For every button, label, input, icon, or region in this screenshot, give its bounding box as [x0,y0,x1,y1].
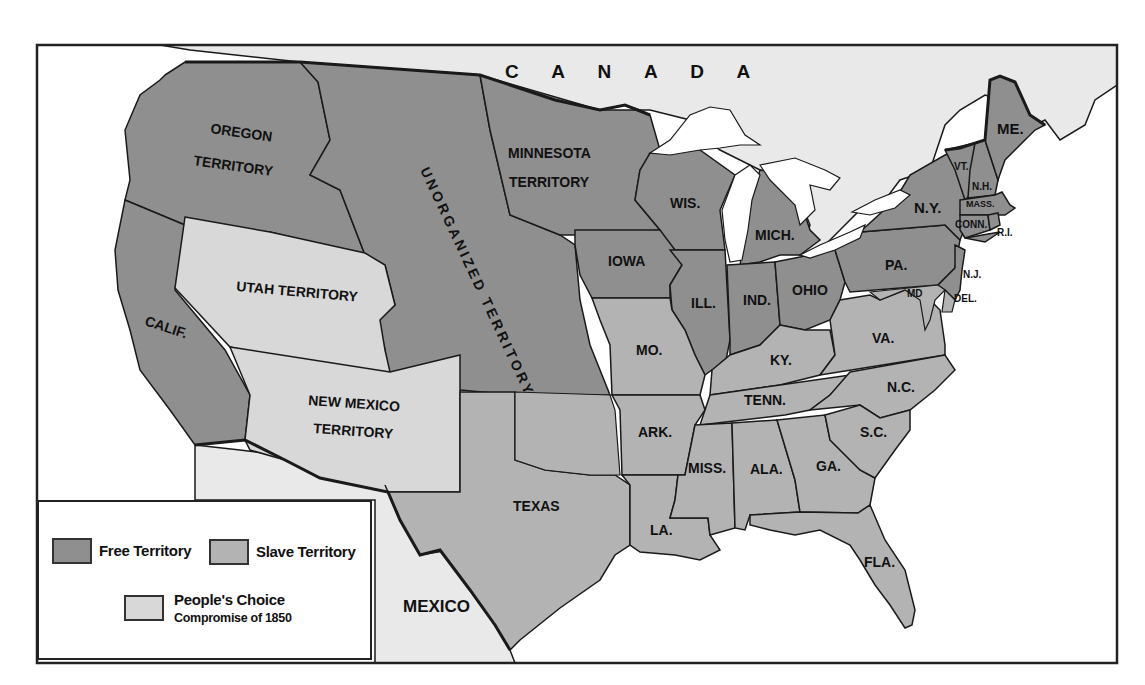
label-pa: PA. [885,257,907,273]
legend-swatch-peoples-choice [124,595,164,621]
label-ala: ALA. [750,461,783,477]
label-me: ME. [997,120,1024,137]
legend-swatch-free [52,538,92,564]
legend-label-free: Free Territory [99,542,191,559]
legend-label-peoples-choice: People's Choice [174,591,285,608]
label-texas: TEXAS [513,498,560,514]
label-fla: FLA. [864,554,895,570]
label-wis: WIS. [670,195,700,211]
label-vt: VT. [954,161,969,172]
label-del: DEL. [954,293,977,304]
label-mich: MICH. [755,227,795,243]
label-va: VA. [872,330,894,346]
label-ga: GA. [816,458,841,474]
label-minnesota-territory-2: TERRITORY [509,174,590,190]
label-ark: ARK. [638,424,672,440]
label-mass: MASS. [966,199,995,209]
label-ky: KY. [770,352,792,368]
label-nh: N.H. [972,181,992,192]
label-sc: S.C. [860,424,887,440]
legend-label-compromise: Compromise of 1850 [174,611,292,625]
label-mexico: MEXICO [403,597,470,616]
label-ny: N.Y. [914,199,942,216]
label-conn: CONN. [955,219,987,230]
label-minnesota-territory-1: MINNESOTA [508,145,591,161]
label-ohio: OHIO [792,282,828,298]
label-iowa: IOWA [608,253,645,269]
label-nc: N.C. [887,379,915,395]
label-md: MD [907,288,923,299]
label-miss: MISS. [688,460,726,476]
legend-swatch-slave [209,539,249,565]
label-tenn: TENN. [744,392,786,408]
legend-label-slave: Slave Territory [256,543,355,560]
label-nj: N.J. [963,269,982,280]
label-la: LA. [650,522,673,538]
label-ill: ILL. [691,295,716,311]
label-ri: R.I. [997,227,1013,238]
region-indian-territory [515,392,620,475]
legend: Free Territory Slave Territory People's … [37,500,372,660]
label-mo: MO. [636,342,662,358]
label-ind: IND. [743,292,771,308]
label-canada: C A N A D A [505,61,764,82]
